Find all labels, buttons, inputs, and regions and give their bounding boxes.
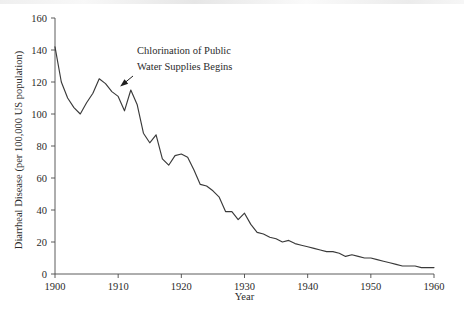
annotation-chlorination: Chlorination of Public Water Supplies Be… [120, 45, 232, 87]
x-axis-ticks [55, 274, 434, 278]
x-tick-label: 1920 [171, 281, 192, 292]
axes [51, 18, 434, 278]
y-tick-label: 60 [37, 173, 48, 184]
x-tick-label: 1900 [45, 281, 66, 292]
y-tick-label: 120 [31, 77, 47, 88]
y-axis-ticks [51, 18, 55, 274]
annotation-line-1: Chlorination of Public [137, 45, 231, 56]
y-tick-label: 20 [37, 237, 48, 248]
y-axis-tick-labels: 020406080100120140160 [31, 13, 47, 280]
chart-page: 020406080100120140160 190019101920193019… [0, 0, 464, 315]
annotation-arrow-icon [125, 76, 133, 82]
y-tick-label: 160 [31, 13, 47, 24]
y-tick-label: 0 [42, 269, 47, 280]
annotation-line-2: Water Supplies Begins [137, 61, 232, 72]
diarrheal-disease-chart: 020406080100120140160 190019101920193019… [0, 0, 464, 315]
y-tick-label: 100 [31, 109, 47, 120]
y-tick-label: 80 [37, 141, 48, 152]
x-tick-label: 1940 [297, 281, 318, 292]
x-tick-label: 1910 [108, 281, 129, 292]
x-tick-label: 1960 [424, 281, 445, 292]
x-axis-title: Year [235, 291, 255, 302]
x-tick-label: 1950 [360, 281, 381, 292]
data-series-line [55, 47, 434, 268]
y-tick-label: 40 [37, 205, 48, 216]
y-axis-title: Diarrheal Disease (per 100,000 US popula… [13, 50, 25, 249]
y-tick-label: 140 [31, 45, 47, 56]
